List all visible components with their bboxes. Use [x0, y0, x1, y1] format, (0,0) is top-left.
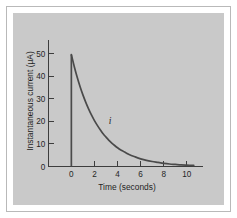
x-axis-title: Time (seconds): [98, 182, 156, 192]
x-tick-label: 6: [138, 170, 143, 179]
x-tick-label: 8: [161, 170, 166, 179]
curve-label-i: i: [109, 116, 112, 126]
y-tick-label: 40: [36, 72, 46, 81]
figure-root: 010203040500246810 i Time (seconds) Inst…: [0, 0, 237, 218]
x-tick-label: 0: [69, 170, 74, 179]
x-tick-label: 4: [115, 170, 120, 179]
x-tick-label: 10: [182, 170, 192, 179]
x-tick-label: 2: [92, 170, 97, 179]
current-decay-curve: [71, 55, 193, 166]
y-axis-title: Instantaneous current (μA): [25, 51, 35, 151]
tick-marks-group: [49, 54, 187, 167]
y-tick-label: 10: [36, 140, 46, 149]
tick-labels-group: 010203040500246810: [36, 50, 192, 179]
annotations-group: i: [109, 116, 112, 126]
y-tick-label: 50: [36, 50, 46, 59]
y-tick-label: 0: [41, 163, 46, 172]
y-tick-label: 30: [36, 95, 46, 104]
current-decay-chart: 010203040500246810 i Time (seconds) Inst…: [0, 0, 237, 218]
y-tick-label: 20: [36, 117, 46, 126]
data-series-group: [71, 55, 193, 167]
